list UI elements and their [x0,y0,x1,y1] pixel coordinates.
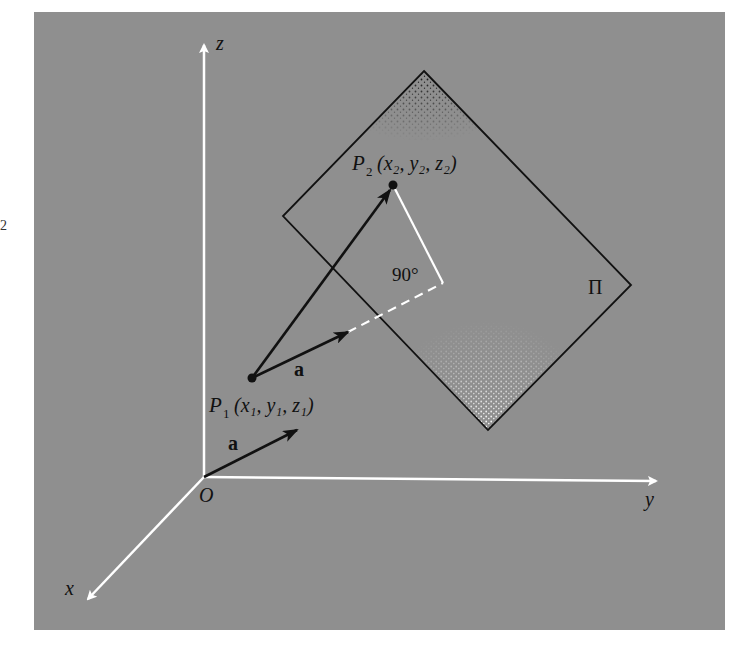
p1-name: P [208,393,222,417]
vector-a-label-p1: a [294,358,304,380]
p1-subscript: 1 [223,406,230,421]
vector-plane-diagram: z y x O Π P 2 (x₂, y₂, z₂) P 1 (x₁, y₁, … [0,0,749,645]
p2-coords: (x₂, y₂, z₂) [377,152,457,175]
p2-name: P [351,151,365,175]
plane-label: Π [588,276,602,298]
point-p1-dot [248,374,257,383]
x-axis-label: x [64,577,74,599]
figure-panel [34,12,725,630]
p1-coords: (x₁, y₁, z₁) [234,394,314,417]
vector-a-label-origin: a [228,432,238,454]
z-axis-label: z [215,32,224,54]
p2-subscript: 2 [366,164,373,179]
right-angle-label: 90° [392,264,419,285]
point-p2-dot [389,181,398,190]
y-axis-label: y [643,488,654,511]
origin-label: O [199,484,213,506]
